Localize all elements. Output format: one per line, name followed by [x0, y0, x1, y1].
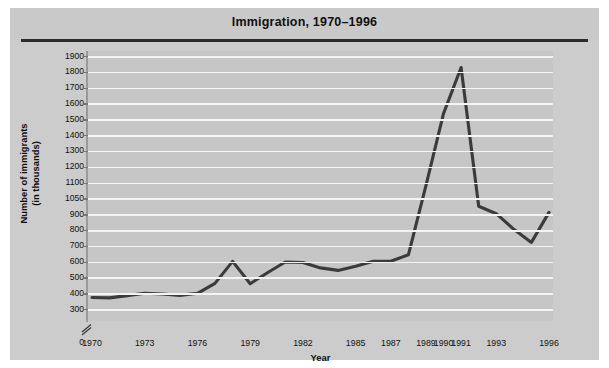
y-axis-tick — [84, 277, 88, 278]
gridline — [88, 103, 553, 105]
x-axis-tick-label: 1970 — [82, 338, 102, 348]
gridline — [88, 293, 553, 295]
gridline — [88, 135, 553, 137]
y-axis-tick-label: 900 — [40, 209, 84, 219]
x-axis-tick-label: 1982 — [293, 338, 313, 348]
y-axis-tick-label: 800 — [40, 224, 84, 234]
y-axis-tick — [84, 262, 88, 263]
gridline — [88, 214, 553, 216]
x-axis-tick-label: 1993 — [486, 338, 506, 348]
data-line-series — [88, 51, 553, 321]
y-axis-tick — [84, 88, 88, 89]
y-axis-tick-label: 1200 — [40, 161, 84, 171]
title-band: Immigration, 1970–1996 — [10, 8, 599, 40]
x-axis-tick-label: 1987 — [381, 338, 401, 348]
y-axis-tick-label: 400 — [40, 288, 84, 298]
x-axis-tick-label: 1991 — [451, 338, 471, 348]
gridline — [88, 309, 553, 311]
y-axis-tick — [84, 151, 88, 152]
gridline — [88, 230, 553, 232]
y-axis-tick-label: 300 — [40, 304, 84, 314]
y-axis-tick-label: 1100 — [40, 177, 84, 187]
gridline — [88, 198, 553, 200]
x-axis-title: Year — [88, 352, 553, 363]
x-axis-tick-label: 1976 — [188, 338, 208, 348]
y-axis-tick-label: 700 — [40, 240, 84, 250]
y-axis-tick-label: 1400 — [40, 130, 84, 140]
y-axis-tick — [84, 214, 88, 215]
y-axis-tick — [84, 183, 88, 184]
gridline — [88, 262, 553, 264]
gridline — [88, 167, 553, 169]
y-axis-tick-label: 1050 — [40, 193, 84, 203]
y-axis-tick-label: 600 — [40, 256, 84, 266]
y-axis-tick — [84, 135, 88, 136]
y-axis-tick — [84, 72, 88, 73]
chart-figure: Immigration, 1970–1996 Number of immigra… — [10, 8, 599, 360]
y-axis-tick — [84, 198, 88, 199]
y-axis-tick-label: 1900 — [40, 51, 84, 61]
gridline — [88, 56, 553, 58]
y-axis-line — [86, 51, 88, 322]
gridline — [88, 72, 553, 74]
y-axis-tick — [84, 56, 88, 57]
y-axis-tick — [84, 167, 88, 168]
x-axis-tick-label: 1979 — [240, 338, 260, 348]
gridline — [88, 246, 553, 248]
y-axis-tick — [84, 293, 88, 294]
y-axis-title-line1: Number of immigrants — [18, 124, 29, 224]
y-axis-tick — [84, 103, 88, 104]
gridline — [88, 151, 553, 153]
gridline — [88, 277, 553, 279]
axis-break-icon — [80, 322, 96, 336]
chart-title: Immigration, 1970–1996 — [10, 15, 599, 29]
y-axis-tick-label: 1800 — [40, 66, 84, 76]
y-axis-tick-label: 1600 — [40, 98, 84, 108]
plot-wrapper: Number of immigrants (in thousands) 1900… — [10, 42, 599, 360]
y-axis-tick-label: 1500 — [40, 114, 84, 124]
y-axis-tick — [84, 246, 88, 247]
y-axis-tick-labels: 1900180017001600150014001300120011001050… — [36, 51, 84, 322]
x-axis-tick-label: 1973 — [135, 338, 155, 348]
gridline — [88, 119, 553, 121]
y-axis-tick — [84, 119, 88, 120]
plot-area — [88, 51, 553, 321]
y-axis-tick-label: 1700 — [40, 82, 84, 92]
y-axis-tick-label: 1300 — [40, 145, 84, 155]
x-axis-tick-labels: 1970197319761979198219851987198919901991… — [10, 338, 599, 352]
gridline — [88, 88, 553, 90]
x-axis-tick-label: 1996 — [539, 338, 559, 348]
gridline — [88, 183, 553, 185]
y-axis-tick — [84, 230, 88, 231]
y-axis-tick — [84, 309, 88, 310]
y-axis-tick-label: 500 — [40, 272, 84, 282]
x-axis-tick-label: 1985 — [346, 338, 366, 348]
